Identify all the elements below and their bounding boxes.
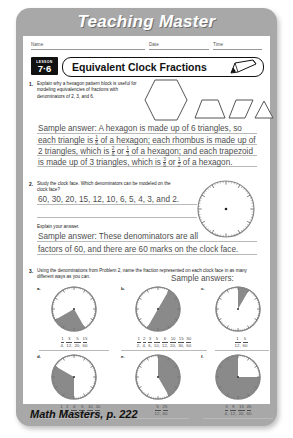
fraction-denominator: 20,	[170, 344, 176, 349]
fraction-numerator: 15	[238, 405, 244, 410]
date-field-rule[interactable]	[149, 49, 209, 50]
clock-label-f: f.	[201, 354, 204, 359]
fraction-45-over-60: 4560	[247, 405, 252, 416]
fraction-1-over-4: 14,	[61, 337, 65, 348]
problem-1-number: 1.	[29, 82, 33, 87]
fraction-list-b: 12,24,36,510,612,1020,1530,3060	[121, 337, 207, 348]
fraction-denominator: 20,	[74, 344, 80, 349]
clock-face-c	[213, 284, 263, 334]
fraction-denominator: 30,	[178, 344, 184, 349]
fraction-list-c: 112,560	[221, 337, 261, 348]
name-date-time-row: Name Date Time	[31, 42, 262, 54]
p1-l2-text-b: of a hexagon; each rhombus is made up of	[100, 136, 255, 145]
fraction-numerator: 5	[74, 337, 80, 342]
fraction-numerator: 3	[148, 337, 152, 342]
fraction-denominator: 60	[247, 412, 252, 417]
fraction-numerator: 5	[155, 405, 161, 410]
fraction-1-over-2: 12,	[137, 337, 141, 348]
fraction-answer-rule[interactable]	[215, 350, 269, 351]
fraction-numerator: 45	[247, 405, 252, 410]
p1-l3-or: or	[117, 147, 124, 156]
fraction-denominator: 12,	[235, 344, 241, 349]
hexagon-shape	[143, 78, 189, 122]
p2-explain-line-1: Sample answer: These denominators are al…	[38, 232, 198, 241]
fraction-list-a: 14,312,520,1560	[39, 337, 109, 348]
clock-face-a	[49, 284, 99, 334]
p1-answer-line-3: 2 triangles, which is 2 6 or 1 3 of a he…	[38, 146, 253, 157]
fraction-numerator: 6	[162, 337, 168, 342]
p1-f4-den: 6	[163, 163, 166, 168]
fraction-5-over-20: 520,	[74, 337, 80, 348]
p1-l2-text-a: each triangle is	[38, 136, 93, 145]
fraction-numerator: 1	[137, 337, 141, 342]
p2-answer-rule-1[interactable]	[37, 204, 197, 205]
fraction-denominator: 60	[83, 344, 88, 349]
worksheet-title-box: Equivalent Clock Fractions	[62, 57, 264, 77]
date-label: Date	[149, 42, 159, 47]
clock-label-e: e.	[121, 354, 125, 359]
clock-label-c: c.	[201, 286, 205, 291]
name-field-rule[interactable]	[31, 49, 145, 50]
fraction-denominator: 2,	[137, 344, 141, 349]
rhombus-shape	[227, 98, 255, 120]
fraction-denominator: 60	[186, 344, 191, 349]
problem-3-number: 3.	[29, 269, 33, 274]
p1-fraction-three-sixths: 3 6	[163, 157, 166, 168]
fraction-5-over-10: 510,	[154, 337, 160, 348]
p1-answer-line-4: is made up of 3 triangles, which is 3 6 …	[38, 157, 232, 168]
p2-explain-rule-2[interactable]	[37, 254, 257, 255]
p2-explain-line-2: factors of 60, and there are 60 marks on…	[38, 245, 238, 254]
fraction-numerator: 2	[143, 337, 147, 342]
p1-answer-line-2: each triangle is 1 6 of a hexagon; each …	[38, 135, 256, 146]
fraction-denominator: 4,	[61, 344, 65, 349]
clock-label-d: d.	[37, 354, 41, 359]
problem-1-prompt: Explain why a hexagon pattern block is u…	[37, 81, 137, 100]
p1-answer-rule-1[interactable]	[37, 133, 257, 134]
fraction-1-over-12: 112,	[235, 337, 241, 348]
fraction-denominator: 4,	[225, 412, 229, 417]
triangle-shape	[253, 98, 275, 120]
fraction-3-over-12: 312,	[66, 337, 72, 348]
clock-face-f	[213, 352, 263, 402]
fraction-answer-rule[interactable]	[39, 350, 109, 351]
fraction-3-over-4: 34,	[225, 405, 229, 416]
worksheet-page: Teaching Master Name Date Time LESSON 7·…	[0, 0, 293, 438]
fraction-5-over-60: 560	[243, 337, 248, 348]
fraction-numerator: 3	[66, 337, 72, 342]
worksheet-card: Teaching Master Name Date Time LESSON 7·…	[16, 8, 277, 426]
fraction-numerator: 5	[243, 337, 248, 342]
name-label: Name	[31, 42, 43, 47]
p1-fraction-two-sixths: 2 6	[112, 146, 115, 157]
p1-f5-den: 2	[178, 163, 181, 168]
time-label: Time	[213, 42, 223, 47]
fraction-answer-rule[interactable]	[203, 418, 273, 419]
fraction-answer-rule[interactable]	[121, 350, 207, 351]
fraction-15-over-30: 1530,	[178, 337, 184, 348]
p2-answer-rule-2[interactable]	[37, 217, 197, 218]
trapezoid-shape	[193, 98, 227, 120]
fraction-numerator: 1	[235, 337, 241, 342]
worksheet-body: Name Date Time LESSON 7·6 Equivalent Clo…	[23, 36, 270, 404]
pencil-icon	[229, 59, 259, 75]
clock-label-a: a.	[37, 286, 41, 291]
fraction-denominator: 12,	[155, 412, 161, 417]
p2-explain-label: Explain your answer.	[37, 224, 79, 229]
lesson-title-row: LESSON 7·6 Equivalent Clock Fractions	[31, 57, 262, 76]
footer-text: Math Masters, p. 222	[30, 408, 138, 420]
fraction-answer-rule[interactable]	[135, 418, 189, 419]
clock-label-b: b.	[121, 286, 125, 291]
fraction-5-over-12: 512,	[155, 405, 161, 416]
fraction-list-f: 34,912,1520,4560	[203, 405, 273, 416]
fraction-denominator: 60	[163, 412, 168, 417]
fraction-numerator: 15	[83, 337, 88, 342]
fraction-numerator: 30	[186, 337, 191, 342]
fraction-numerator: 1	[61, 337, 65, 342]
p2-explain-rule-1[interactable]	[37, 241, 257, 242]
fraction-3-over-6: 36,	[148, 337, 152, 348]
fraction-denominator: 4,	[143, 344, 147, 349]
p3-sample-label: Sample answers:	[171, 274, 234, 283]
fraction-denominator: 12,	[230, 412, 236, 417]
fraction-denominator: 60	[243, 344, 248, 349]
clock-face-b	[133, 284, 183, 334]
time-field-rule[interactable]	[213, 49, 262, 50]
